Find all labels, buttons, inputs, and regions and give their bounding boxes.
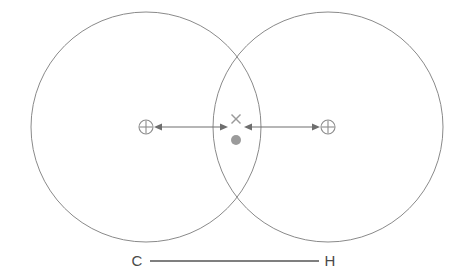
overlap-cross-icon xyxy=(232,115,241,124)
hydrogen-nucleus-crosshair-icon xyxy=(321,120,335,134)
hydrogen-atom-label: H xyxy=(325,252,336,269)
ch-bond-overlap-diagram: C H xyxy=(0,0,464,277)
hydrogen-radius-arrow xyxy=(244,124,320,131)
overlap-dot-icon xyxy=(231,135,241,145)
carbon-radius-arrow xyxy=(154,124,228,131)
diagram-canvas: C H xyxy=(0,0,464,277)
carbon-atom-label: C xyxy=(132,252,143,269)
carbon-nucleus-crosshair-icon xyxy=(139,120,153,134)
